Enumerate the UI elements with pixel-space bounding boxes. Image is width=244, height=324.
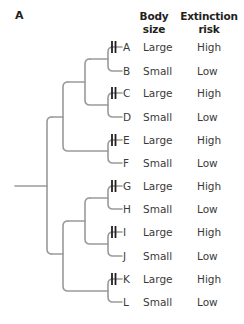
body-size-value: Small xyxy=(143,109,172,125)
taxon-label: E xyxy=(123,132,135,148)
taxon-label: H xyxy=(123,201,135,217)
body-size-value: Large xyxy=(143,39,173,55)
body-size-value: Small xyxy=(143,248,172,264)
extinction-risk-value: Low xyxy=(197,155,218,171)
body-size-value: Small xyxy=(143,201,172,217)
taxon-label: G xyxy=(123,178,135,194)
table-row: K Large High xyxy=(0,271,244,287)
extinction-risk-value: High xyxy=(197,132,221,148)
body-size-value: Large xyxy=(143,178,173,194)
body-size-value: Large xyxy=(143,132,173,148)
body-size-value: Large xyxy=(143,85,173,101)
extinction-risk-value: High xyxy=(197,271,221,287)
extinction-risk-value: Low xyxy=(197,109,218,125)
body-size-value: Small xyxy=(143,63,172,79)
table-row: G Large High xyxy=(0,178,244,194)
taxon-label: K xyxy=(123,271,135,287)
body-size-value: Large xyxy=(143,224,173,240)
table-row: J Small Low xyxy=(0,248,244,264)
body-size-value: Large xyxy=(143,271,173,287)
table-row: H Small Low xyxy=(0,201,244,217)
taxon-label: C xyxy=(123,85,135,101)
table-row: F Small Low xyxy=(0,155,244,171)
extinction-risk-value: Low xyxy=(197,63,218,79)
extinction-risk-value: High xyxy=(197,224,221,240)
table-row: L Small Low xyxy=(0,294,244,310)
taxon-label: I xyxy=(123,224,135,240)
table-row: C Large High xyxy=(0,85,244,101)
extinction-risk-value: Low xyxy=(197,248,218,264)
extinction-risk-value: High xyxy=(197,178,221,194)
table-row: E Large High xyxy=(0,132,244,148)
extinction-risk-value: High xyxy=(197,85,221,101)
table-row: A Large High xyxy=(0,39,244,55)
extinction-risk-value: Low xyxy=(197,294,218,310)
table-row: B Small Low xyxy=(0,63,244,79)
table-row: D Small Low xyxy=(0,109,244,125)
extinction-risk-value: Low xyxy=(197,201,218,217)
table-row: I Large High xyxy=(0,224,244,240)
taxon-label: B xyxy=(123,63,135,79)
extinction-risk-value: High xyxy=(197,39,221,55)
taxon-label: L xyxy=(123,294,135,310)
taxon-label: J xyxy=(123,248,135,264)
body-size-value: Small xyxy=(143,155,172,171)
taxon-label: A xyxy=(123,39,135,55)
taxon-label: F xyxy=(123,155,135,171)
taxon-label: D xyxy=(123,109,135,125)
body-size-value: Small xyxy=(143,294,172,310)
